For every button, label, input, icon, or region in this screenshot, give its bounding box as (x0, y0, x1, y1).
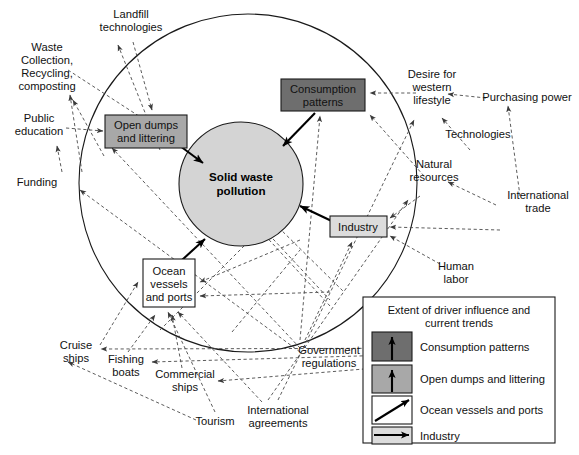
label-commercial-ships-line2: ships (172, 381, 199, 393)
driver-box-ocean-vessels-label-line2: vessels (150, 278, 188, 290)
link-commercial-ships-to-ocean-vessels (172, 315, 182, 368)
arrow-consumption-to-center (283, 113, 315, 146)
link-waste-collection-to-open-dumps (68, 70, 148, 122)
label-intl-agreements-line2: agreements (248, 417, 307, 429)
outer-driver-label-desire-for-western-lifestyle: Desire for western lifestyle (408, 68, 457, 106)
driver-box-ocean-vessels-label-line1: Ocean (153, 265, 186, 277)
link-funding-to-public-education (57, 146, 62, 172)
solid-waste-pollution-label-line2: pollution (217, 184, 266, 197)
label-government-line1: Government (298, 344, 360, 356)
legend: Extent of driver influence and current t… (363, 297, 555, 444)
driver-box-ocean-vessels-and-ports[interactable]: Ocean vessels and ports (143, 259, 195, 307)
link-intl-trade-to-purchasing-power (508, 106, 520, 196)
label-public-education-line2: education (15, 125, 64, 137)
label-funding: Funding (17, 176, 57, 188)
label-fishing-boats-line2: boats (112, 366, 140, 378)
diagram-canvas: Solid waste pollution Open dumps and lit… (0, 0, 579, 455)
outer-driver-label-fishing-boats: Fishing boats (108, 353, 144, 378)
label-cruise-ships-line1: Cruise (60, 339, 92, 351)
label-human-labor-line1: Human (438, 260, 474, 272)
label-landfill-line1: Landfill (113, 8, 148, 20)
label-purchasing-power: Purchasing power (482, 91, 572, 103)
label-landfill-line2: technologies (100, 21, 163, 33)
link-fishing-boats-to-ocean-vessels (128, 315, 155, 352)
outer-driver-label-purchasing-power: Purchasing power (482, 91, 572, 103)
label-desire-line3: lifestyle (413, 94, 450, 106)
label-intl-trade-line2: trade (525, 202, 551, 214)
label-desire-line1: Desire for (408, 68, 457, 80)
label-waste-line1: Waste (31, 41, 62, 53)
link-public-education-to-waste-collection (73, 100, 104, 156)
label-intl-trade-line1: International (507, 189, 569, 201)
outer-driver-label-international-trade: International trade (507, 189, 569, 214)
legend-label-open-dumps-and-littering: Open dumps and littering (420, 373, 545, 385)
outer-driver-label-cruise-ships: Cruise ships (60, 339, 92, 364)
link-right-to-ocean-vessels-a (200, 240, 300, 282)
arrow-ocean-vessels-to-center (182, 239, 205, 260)
outer-driver-label-public-education: Public education (15, 112, 64, 137)
outer-driver-label-commercial-ships: Commercial ships (155, 368, 215, 393)
link-purchasing-power-to-desire (448, 94, 486, 98)
outer-driver-label-international-agreements: International agreements (247, 404, 309, 429)
link-tourism-to-ocean-vessels (168, 312, 215, 412)
driver-box-open-dumps-and-littering[interactable]: Open dumps and littering (105, 115, 187, 148)
label-technologies: Technologies (445, 128, 511, 140)
driver-box-industry-label: Industry (338, 221, 378, 233)
label-fishing-boats-line1: Fishing (108, 353, 144, 365)
outer-driver-label-human-labor: Human labor (438, 260, 474, 285)
driver-box-consumption-patterns[interactable]: Consumption patterns (281, 79, 365, 111)
driver-box-industry[interactable]: Industry (330, 216, 387, 237)
link-human-labor-to-industry (390, 236, 440, 264)
label-public-education-line1: Public (24, 112, 55, 124)
label-waste-line2: Collection, (21, 54, 73, 66)
outer-driver-label-waste-collection-recycling-composting: Waste Collection, Recycling, composting (18, 41, 75, 92)
legend-title-line2: current trends (425, 317, 493, 329)
outer-driver-label-landfill-technologies: Landfill technologies (100, 8, 163, 33)
link-intl-trade-to-natural-resources (448, 182, 496, 205)
label-tourism: Tourism (195, 415, 234, 427)
label-natural-resources-line1: Natural (416, 158, 452, 170)
legend-label-industry: Industry (420, 430, 460, 442)
label-waste-line4: composting (18, 80, 75, 92)
label-commercial-ships-line1: Commercial (155, 368, 215, 380)
link-government-to-consumption (300, 116, 320, 340)
outer-driver-label-technologies: Technologies (445, 128, 511, 140)
outer-driver-label-natural-resources: Natural resources (409, 158, 459, 183)
driver-box-open-dumps-label-line1: Open dumps (114, 119, 178, 131)
link-public-education-to-open-dumps (66, 128, 103, 131)
label-natural-resources-line2: resources (409, 171, 459, 183)
driver-box-consumption-label-line2: patterns (303, 96, 344, 108)
solid-waste-pollution-label-line1: Solid waste (209, 170, 273, 183)
link-funding-to-waste-collection (70, 95, 82, 172)
legend-title-line1: Extent of driver influence and (388, 304, 530, 316)
driver-box-open-dumps-label-line2: and littering (117, 132, 175, 144)
label-human-labor-line2: labor (444, 273, 469, 285)
link-government-to-industry (305, 242, 352, 340)
outer-driver-label-funding: Funding (17, 176, 57, 188)
label-intl-agreements-line1: International (247, 404, 309, 416)
legend-label-ocean-vessels-and-ports: Ocean vessels and ports (420, 404, 544, 416)
label-cruise-ships-line2: ships (63, 352, 90, 364)
driver-box-ocean-vessels-label-line3: and ports (146, 291, 193, 303)
label-waste-line3: Recycling, (21, 67, 73, 79)
driver-influence-diagram: Solid waste pollution Open dumps and lit… (0, 0, 579, 455)
label-government-line2: regulations (302, 357, 357, 369)
outer-driver-label-government-regulations: Government regulations (298, 344, 360, 369)
outer-driver-label-tourism: Tourism (195, 415, 234, 427)
legend-label-consumption-patterns: Consumption patterns (420, 341, 530, 353)
label-desire-line2: western (411, 81, 451, 93)
link-landfill-to-open-dumps (133, 42, 152, 110)
driver-box-consumption-label-line1: Consumption (290, 83, 356, 95)
link-intl-trade-to-industry (390, 227, 500, 230)
